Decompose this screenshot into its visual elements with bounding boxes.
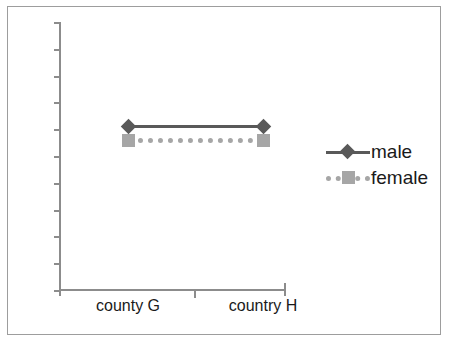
chart-image: county G country H malefemale bbox=[0, 0, 450, 344]
series-line-male bbox=[128, 125, 263, 128]
data-point-female-country-h bbox=[257, 134, 270, 147]
data-point-male-country-h bbox=[255, 118, 271, 134]
series-line-female bbox=[128, 138, 263, 143]
legend-label-female: female bbox=[371, 167, 428, 189]
plot-area bbox=[59, 22, 286, 291]
legend-swatch-male bbox=[326, 142, 370, 162]
x-tick-label-county-g: county G bbox=[78, 297, 178, 315]
legend-marker-square-icon bbox=[342, 171, 355, 184]
legend-item-female[interactable]: female bbox=[326, 165, 428, 191]
legend-marker-diamond-icon bbox=[340, 144, 356, 160]
legend-item-male[interactable]: male bbox=[326, 139, 428, 165]
x-axis-mid-tick bbox=[194, 291, 196, 298]
legend-swatch-female bbox=[326, 168, 370, 188]
legend-label-male: male bbox=[371, 141, 412, 163]
x-tick-label-country-h: country H bbox=[208, 297, 318, 315]
chart-legend: malefemale bbox=[326, 139, 428, 191]
data-point-female-county-g bbox=[122, 134, 135, 147]
data-point-male-county-g bbox=[120, 118, 136, 134]
